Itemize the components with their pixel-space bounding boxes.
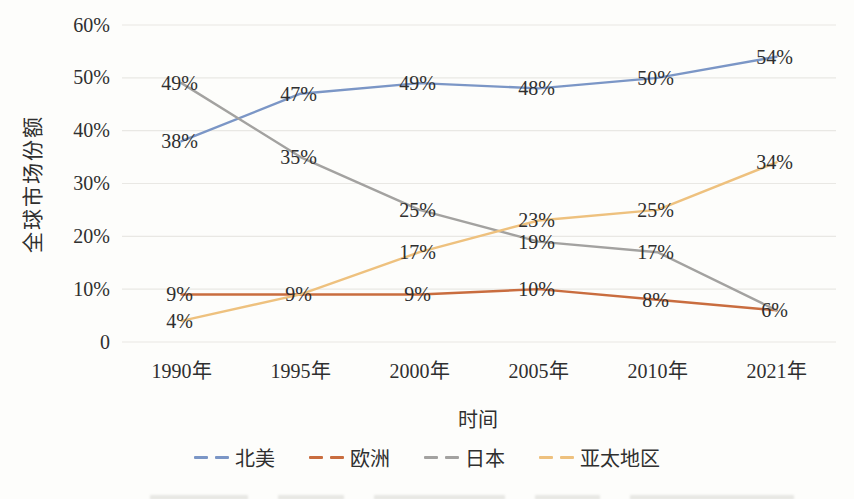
legend-label: 日本 [465,443,505,472]
data-label: 9% [404,283,431,305]
data-label: 47% [280,83,317,105]
data-label: 35% [280,146,317,168]
legend-label: 亚太地区 [580,443,660,472]
data-label: 6% [761,299,788,321]
series-line [182,162,777,321]
data-label: 17% [637,241,674,263]
data-label: 48% [518,77,555,99]
x-axis-title: 时间 [458,404,498,433]
data-label: 49% [161,72,198,94]
line-chart: 010%20%30%40%50%60%1990年1995年2000年2005年2… [0,0,854,499]
data-label: 9% [285,283,312,305]
y-tick-label: 50% [73,66,110,88]
data-label: 4% [166,310,193,332]
series-line [182,57,777,142]
data-label: 23% [518,209,555,231]
legend: 北美欧洲日本亚太地区 [0,443,854,472]
data-label: 19% [518,231,555,253]
legend-dash-marker-icon [539,456,574,459]
series-line [182,289,777,310]
y-tick-label: 20% [73,225,110,247]
y-tick-label: 60% [73,14,110,36]
data-label: 49% [399,72,436,94]
y-tick-label: 30% [73,172,110,194]
legend-item: 欧洲 [309,443,390,472]
data-label: 9% [166,283,193,305]
legend-dash-marker-icon [309,456,344,459]
legend-label: 欧洲 [350,443,390,472]
data-label: 17% [399,241,436,263]
legend-dash-marker-icon [194,456,229,459]
data-label: 50% [637,67,674,89]
y-tick-label: 10% [73,278,110,300]
y-axis-title: 全球市场份额 [16,115,46,253]
y-tick-label: 0 [100,331,110,353]
y-tick-label: 40% [73,119,110,141]
data-label: 34% [756,151,793,173]
legend-dash-marker-icon [424,456,459,459]
x-tick-label: 2010年 [628,360,688,382]
legend-item: 日本 [424,443,505,472]
cropped-caption-remnant [150,492,794,499]
x-tick-label: 2005年 [509,360,569,382]
data-label: 38% [161,130,198,152]
chart-page: 010%20%30%40%50%60%1990年1995年2000年2005年2… [0,0,854,499]
series-line [182,83,777,310]
x-tick-label: 2000年 [390,360,450,382]
data-label: 25% [399,199,436,221]
data-label: 25% [637,199,674,221]
data-label: 10% [518,278,555,300]
legend-item: 北美 [194,443,275,472]
data-label: 54% [756,46,793,68]
legend-label: 北美 [235,443,275,472]
x-tick-label: 1990年 [152,360,212,382]
x-tick-label: 2021年 [747,360,807,382]
legend-item: 亚太地区 [539,443,660,472]
data-label: 8% [642,289,669,311]
x-tick-label: 1995年 [271,360,331,382]
